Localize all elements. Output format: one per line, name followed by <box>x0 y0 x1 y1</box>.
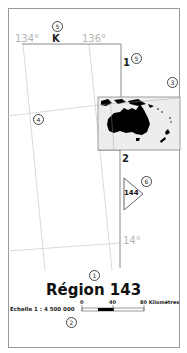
meridian-134 <box>23 44 45 270</box>
longitude-label-134: 134° <box>15 33 39 44</box>
callout-scale: 2 <box>66 317 77 328</box>
latitude-label-14: 14° <box>123 235 141 246</box>
callout-zone-letter: 5 <box>52 21 63 32</box>
graticule <box>8 44 120 270</box>
callout-sheet-number: 5 <box>131 53 142 64</box>
adjacent-region-number: 144 <box>124 189 139 197</box>
zone-letter: K <box>52 33 60 44</box>
scale-tick-80: 80 Kilomètres <box>140 299 179 305</box>
callout-grid: 4 <box>33 114 44 125</box>
callout-inset: 3 <box>167 77 178 88</box>
scale-text: Échelle 1 : 4 500 000 <box>10 306 75 312</box>
parallel-14 <box>8 243 120 251</box>
map-title: Région 143 <box>46 281 141 299</box>
meridian-136 <box>89 44 112 270</box>
longitude-label-136: 136° <box>82 33 106 44</box>
callout-title: 1 <box>89 270 100 281</box>
scale-bar <box>82 305 144 311</box>
region-boundary <box>22 44 121 97</box>
parallel-north <box>8 105 98 116</box>
scale-tick-40: 40 <box>109 299 116 305</box>
scale-tick-0: 0 <box>80 299 83 305</box>
sheet-number-1: 1 <box>123 57 130 68</box>
callout-adjacent: 6 <box>141 176 152 187</box>
inset-locator-map <box>98 97 180 150</box>
sheet-number-2: 2 <box>122 153 129 164</box>
